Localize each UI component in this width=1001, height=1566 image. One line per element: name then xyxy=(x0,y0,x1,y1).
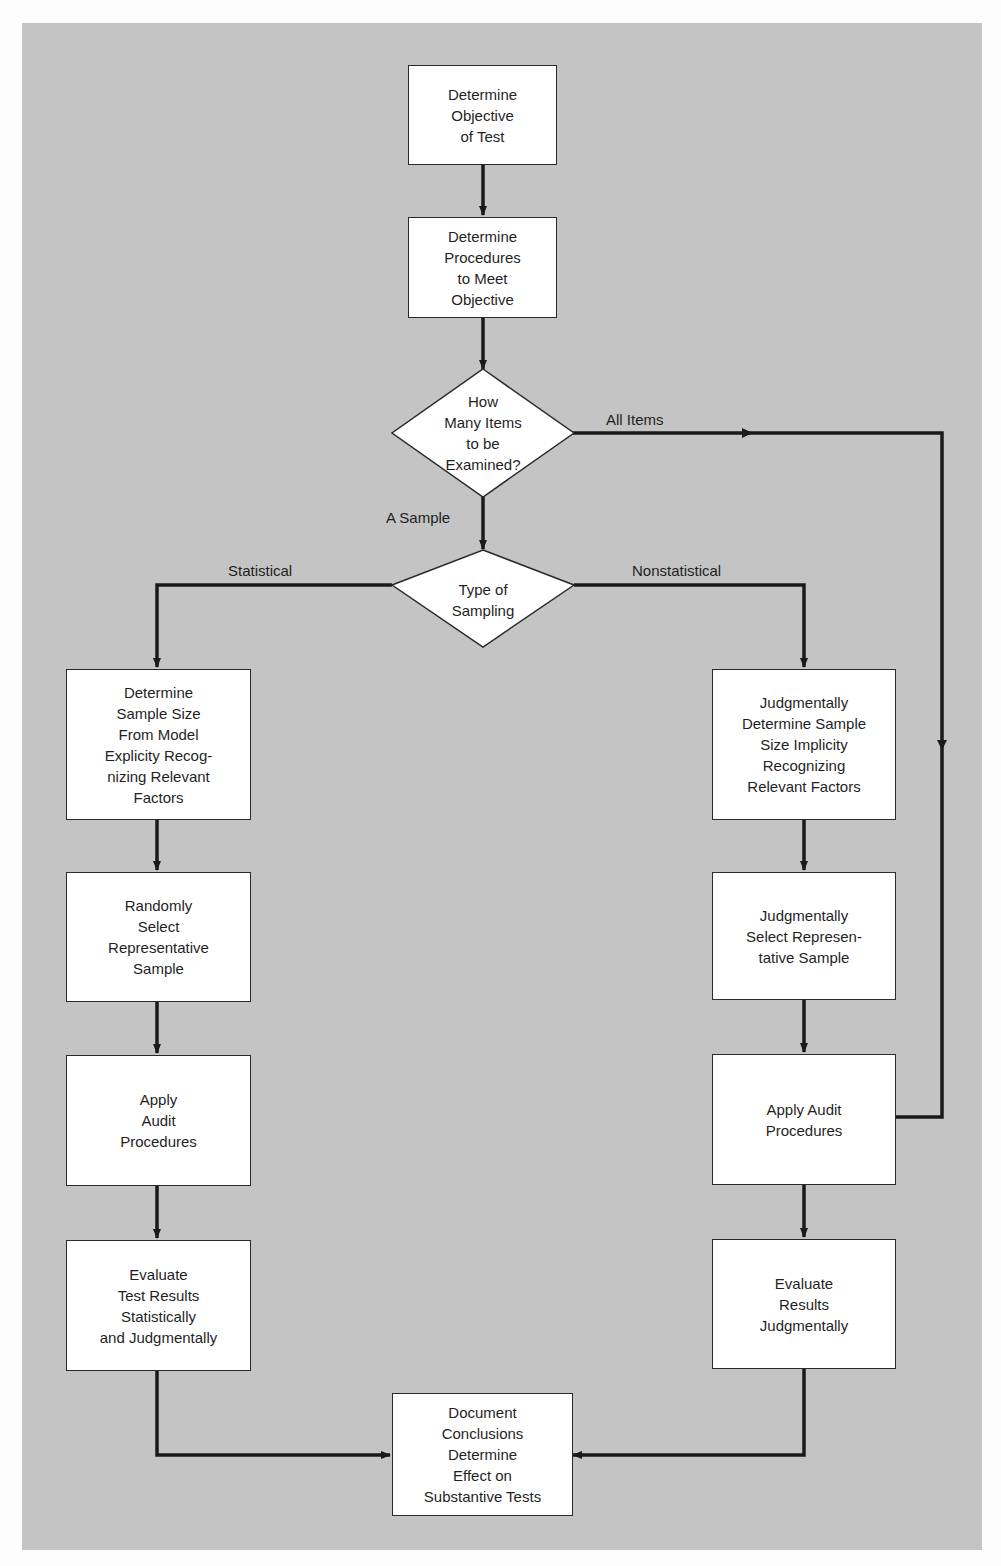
node-nonstat-select-sample: Judgmentally Select Represen- tative Sam… xyxy=(712,872,896,1000)
decision-type-of-sampling: Type of Sampling xyxy=(423,576,543,624)
edge-nonstat-evaluate-document xyxy=(573,1368,804,1455)
node-label: Determine Procedures to Meet Objective xyxy=(444,226,521,310)
node-nonstat-apply-procedures: Apply Audit Procedures xyxy=(712,1054,896,1185)
node-label: Judgmentally Determine Sample Size Impli… xyxy=(742,692,866,797)
edge-label-a-sample: A Sample xyxy=(386,509,450,527)
node-nonstat-evaluate-results: Evaluate Results Judgmentally xyxy=(712,1239,896,1369)
edge-nonstatistical xyxy=(574,585,804,667)
node-label: Determine Objective of Test xyxy=(448,84,517,147)
node-determine-procedures: Determine Procedures to Meet Objective xyxy=(408,217,557,318)
edge-label-nonstatistical: Nonstatistical xyxy=(632,562,721,580)
node-label: Randomly Select Representative Sample xyxy=(108,895,209,979)
node-label: How Many Items to be Examined? xyxy=(444,391,522,475)
node-stat-evaluate-results: Evaluate Test Results Statistically and … xyxy=(66,1240,251,1371)
decision-how-many-items: How Many Items to be Examined? xyxy=(413,385,553,481)
node-stat-determine-sample-size: Determine Sample Size From Model Explici… xyxy=(66,669,251,820)
node-stat-apply-procedures: Apply Audit Procedures xyxy=(66,1055,251,1186)
edge-statistical xyxy=(157,585,392,667)
node-label: Evaluate Test Results Statistically and … xyxy=(100,1264,218,1348)
node-document-conclusions: Document Conclusions Determine Effect on… xyxy=(392,1393,573,1516)
node-label: Apply Audit Procedures xyxy=(766,1099,843,1141)
edge-label-all-items: All Items xyxy=(606,411,664,429)
node-label: Evaluate Results Judgmentally xyxy=(760,1273,848,1336)
node-label: Judgmentally Select Represen- tative Sam… xyxy=(746,905,862,968)
node-label: Document Conclusions Determine Effect on… xyxy=(424,1402,541,1507)
edge-label-statistical: Statistical xyxy=(228,562,292,580)
node-nonstat-determine-sample-size: Judgmentally Determine Sample Size Impli… xyxy=(712,669,896,820)
node-label: Type of Sampling xyxy=(452,579,515,621)
node-label: Determine Sample Size From Model Explici… xyxy=(105,682,213,808)
edge-stat-evaluate-document xyxy=(157,1370,390,1455)
node-label: Apply Audit Procedures xyxy=(120,1089,197,1152)
node-stat-randomly-select: Randomly Select Representative Sample xyxy=(66,872,251,1002)
node-determine-objective: Determine Objective of Test xyxy=(408,65,557,165)
